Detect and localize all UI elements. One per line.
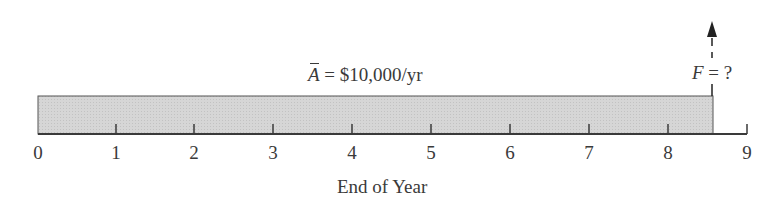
tick-label-4: 4: [347, 142, 357, 164]
tick-label-3: 3: [268, 142, 278, 164]
tick-label-6: 6: [505, 142, 515, 164]
tick-label-0: 0: [33, 142, 43, 164]
tick-label-5: 5: [426, 142, 436, 164]
tick-label-2: 2: [189, 142, 199, 164]
future-value: = ?: [704, 62, 733, 83]
annuity-value: = $10,000/yr: [320, 64, 423, 85]
tick-label-7: 7: [584, 142, 594, 164]
tick-label-8: 8: [663, 142, 673, 164]
timeline-graphic: [0, 0, 778, 201]
annuity-symbol: A: [308, 64, 320, 86]
future-value-label: F = ?: [690, 62, 734, 84]
continuous-annuity-region: [38, 96, 713, 134]
future-symbol: F: [692, 62, 704, 83]
axis-title: End of Year: [337, 176, 427, 198]
tick-label-1: 1: [111, 142, 121, 164]
arrow-head-icon: [707, 21, 717, 37]
annuity-label: A = $10,000/yr: [308, 64, 423, 86]
tick-label-9: 9: [742, 142, 752, 164]
